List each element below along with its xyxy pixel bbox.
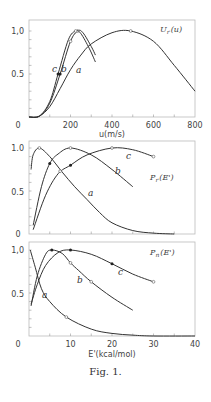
y-tick-label-0: 0: [15, 230, 20, 239]
figure-canvas: 1,0 0.5 0 200 400 600 800 u(m/s) Ur(u) c…: [0, 0, 211, 402]
curve-c: [29, 31, 95, 118]
curve-c: [31, 250, 153, 304]
y-tick-label-05: 0.5: [11, 188, 24, 197]
y-tick-label-05: 0.5: [11, 290, 24, 299]
curves: [30, 249, 195, 337]
open-marker: [129, 30, 132, 33]
open-marker: [69, 147, 72, 150]
open-marker: [65, 316, 68, 319]
curve-label-b: b: [61, 64, 67, 74]
open-marker: [59, 170, 62, 173]
function-label: Ur(u): [160, 25, 182, 35]
x-tick-label-10: 10: [65, 340, 75, 349]
y-tick-label-05: 0.5: [11, 70, 24, 79]
open-marker: [69, 40, 72, 43]
y-tick-label-1: 1,0: [11, 27, 24, 36]
curve-label-b: b: [77, 275, 83, 285]
curve-a: [31, 148, 174, 234]
x-axis-label: E'(kcal/mol): [88, 350, 135, 359]
curve-label-c: c: [52, 64, 57, 74]
curve-label-a: a: [76, 65, 81, 75]
panel-ur: 1,0 0.5 0 200 400 600 800 u(m/s) Ur(u) c…: [11, 20, 202, 139]
x-tick-label-30: 30: [148, 340, 158, 349]
open-marker: [152, 280, 155, 283]
x-axis-label: u(m/s): [99, 130, 125, 139]
function-label: Pr(E'): [149, 173, 174, 183]
y-tick-label-0: 0: [15, 340, 20, 349]
x-tick-label-400: 400: [104, 121, 119, 130]
filled-marker: [48, 162, 51, 165]
y-tick-label-1: 1,0: [11, 246, 24, 255]
filled-marker: [111, 262, 114, 265]
filled-marker: [50, 249, 53, 252]
open-marker: [90, 280, 93, 283]
function-label: Pn(E'): [149, 248, 175, 258]
filled-marker: [69, 249, 72, 252]
figure-caption: Fig. 1.: [0, 366, 211, 377]
open-marker: [111, 147, 114, 150]
x-tick-label-40: 40: [190, 340, 200, 349]
y-tick-label-1: 1.0: [11, 144, 24, 153]
plot-frame: [29, 141, 195, 234]
open-marker: [38, 147, 41, 150]
x-tick-label-20: 20: [107, 340, 117, 349]
y-tick-label-0: 0: [15, 121, 20, 130]
open-marker: [74, 30, 77, 33]
curve-label-c: c: [126, 151, 131, 161]
x-tick-label-200: 200: [63, 121, 78, 130]
curves: [31, 147, 174, 234]
x-tick-label-600: 600: [146, 121, 161, 130]
x-tick-label-800: 800: [187, 121, 202, 130]
curve-b: [33, 148, 133, 225]
filled-marker: [69, 164, 72, 167]
curve-label-c: c: [118, 267, 123, 277]
curve-label-a: a: [88, 188, 93, 198]
curve-label-b: b: [115, 166, 121, 176]
open-marker: [152, 155, 155, 158]
panel-pn: 1,0 0.5 0 10 20 30 40 E'(kcal/mol) Pn(E'…: [11, 242, 200, 359]
open-marker: [69, 262, 72, 265]
panel-pr: 1.0 0.5 0 Pr(E') c b a: [11, 141, 195, 239]
curve-label-a: a: [42, 290, 47, 300]
